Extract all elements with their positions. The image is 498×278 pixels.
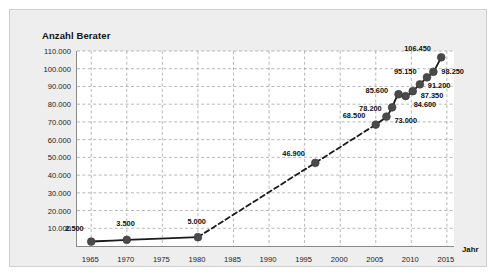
x-tick-label: 1985 (224, 255, 241, 264)
chart-inner: Anzahl Berater 10.00020.00030.00040.0005… (24, 18, 474, 260)
data-point-label: 78.200 (359, 104, 382, 113)
x-tick-label: 2010 (402, 255, 419, 264)
x-tick-label: 1980 (188, 255, 205, 264)
y-tick-label: 110.000 (24, 47, 71, 56)
data-point-label: 106.450 (404, 44, 431, 53)
x-tick-label: 1975 (153, 255, 170, 264)
y-tick-label: 100.000 (24, 64, 71, 73)
x-tick-label: 2015 (437, 255, 454, 264)
chart-title: Anzahl Berater (42, 30, 110, 41)
data-point-label: 87.350 (421, 91, 444, 100)
plot-area (76, 51, 454, 247)
data-point-label: 85.600 (366, 86, 389, 95)
data-point-label: 46.900 (282, 149, 305, 158)
data-point-label: 98.250 (441, 67, 464, 76)
series-line (91, 57, 441, 241)
y-tick-label: 80.000 (24, 100, 71, 109)
y-tick-label: 10.000 (24, 224, 71, 233)
y-tick-label: 20.000 (24, 206, 71, 215)
data-point-label: 73.000 (394, 116, 417, 125)
y-tick-label: 40.000 (24, 171, 71, 180)
x-tick-label: 1995 (295, 255, 312, 264)
data-point-label: 95.150 (394, 67, 417, 76)
y-tick-label: 70.000 (24, 117, 71, 126)
y-tick-label: 50.000 (24, 153, 71, 162)
x-tick-label: 1965 (82, 255, 99, 264)
x-tick-label: 1990 (260, 255, 277, 264)
data-point-label: 2.500 (65, 224, 84, 233)
x-tick-label: 2000 (331, 255, 348, 264)
gridlines (77, 51, 454, 246)
y-tick-label: 90.000 (24, 82, 71, 91)
chart-screenshot: Anzahl Berater 10.00020.00030.00040.0005… (0, 0, 498, 278)
data-point-label: 3.500 (116, 219, 135, 228)
x-tick-label: 1970 (117, 255, 134, 264)
data-point-label: 84.600 (414, 100, 437, 109)
y-tick-label: 60.000 (24, 135, 71, 144)
y-tick-label: 30.000 (24, 188, 71, 197)
chart-frame: Anzahl Berater 10.00020.00030.00040.0005… (9, 9, 487, 267)
x-axis-title: Jahr (462, 245, 478, 254)
series-markers (87, 53, 445, 245)
x-tick-label: 2005 (366, 255, 383, 264)
data-point-label: 5.000 (187, 217, 206, 226)
plot-svg (77, 51, 455, 247)
data-point-label: 91.200 (428, 81, 451, 90)
